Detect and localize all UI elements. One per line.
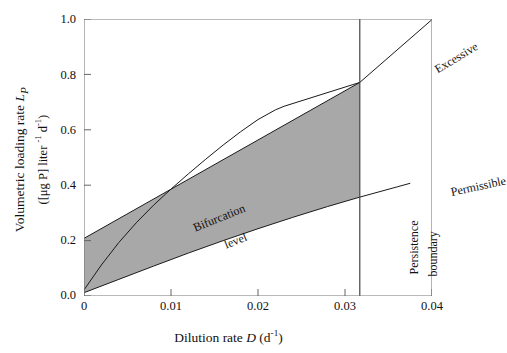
- annotation-persistence: Persistence: [407, 221, 422, 275]
- x-axis-title: Dilution rate D (d-1): [0, 328, 457, 346]
- shaded-region-group: [84, 82, 360, 292]
- annotation-boundary: boundary: [426, 231, 441, 276]
- x-tick-label-2: 0.01: [146, 299, 196, 314]
- y-axis-title-line2: ([μg P] liter -1 d-1): [32, 25, 51, 295]
- y-tick-label-3: 0.6: [30, 123, 76, 138]
- plot-svg: [84, 19, 432, 296]
- annotation-excessive: Excessive: [432, 39, 481, 77]
- y-tick-label-2: 0.8: [30, 68, 76, 83]
- x-tick-label-3: 0.02: [233, 299, 283, 314]
- y-tick-label-1: 1.0: [30, 12, 76, 27]
- y-tick-label-5: 0.2: [30, 233, 76, 248]
- y-axis-title-line1: Volumetric loading rate LP: [10, 25, 32, 295]
- shaded-region: [84, 82, 360, 292]
- y-tick-label-4: 0.4: [30, 178, 76, 193]
- x-tick-label-4: 0.03: [320, 299, 370, 314]
- x-tick-label-1: 0: [59, 299, 109, 314]
- annotation-permissible: Permissible: [449, 174, 507, 200]
- x-tick-label-5: 0.04: [407, 299, 457, 314]
- y-axis-title: Volumetric loading rate LP ([μg P] liter…: [10, 25, 51, 295]
- plot-area: Excessive Permissible Bifurcation level …: [84, 19, 432, 296]
